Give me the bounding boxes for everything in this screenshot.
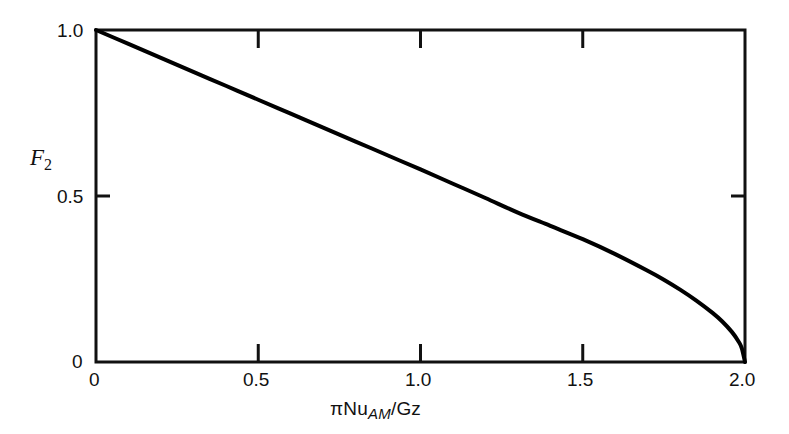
y-axis-title-base: F (30, 145, 44, 170)
y-tick-label-0.5: 0.5 (57, 186, 83, 208)
y-tick-label-1.0: 1.0 (57, 20, 83, 42)
y-tick-label-0: 0 (72, 351, 83, 373)
x-axis-ticks-top (258, 30, 583, 48)
x-tick-label-1.0: 1.0 (405, 369, 431, 391)
x-tick-label-2.0: 2.0 (729, 369, 755, 391)
chart-plot-area (0, 0, 789, 434)
axis-frame (96, 30, 745, 362)
y-axis-title-subscript: 2 (44, 156, 52, 173)
y-axis-title: F2 (30, 145, 52, 174)
data-series-F2 (96, 30, 745, 362)
x-axis-title-subscript: AM (368, 405, 391, 422)
x-axis-title: πNuAM/Gz (330, 398, 421, 422)
figure-canvas: 1.0 0.5 0 0 0.5 1.0 1.5 2.0 F2 πNuAM/Gz (0, 0, 789, 434)
x-axis-title-prefix: πNu (330, 398, 368, 419)
x-tick-label-1.5: 1.5 (567, 369, 593, 391)
x-tick-label-0.5: 0.5 (243, 369, 269, 391)
x-axis-ticks (258, 344, 583, 362)
x-axis-title-suffix: /Gz (391, 398, 421, 419)
x-tick-label-0: 0 (89, 369, 100, 391)
